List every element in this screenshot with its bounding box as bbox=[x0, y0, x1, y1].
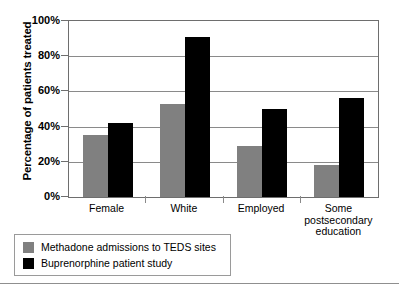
y-axis-tick-label: 100% bbox=[14, 15, 60, 26]
bar bbox=[339, 98, 364, 197]
bar bbox=[160, 104, 185, 197]
y-axis-tick-label: 40% bbox=[14, 120, 60, 131]
legend: Methadone admissions to TEDS sites Bupre… bbox=[14, 234, 231, 276]
legend-swatch-icon bbox=[23, 242, 34, 253]
category-separator bbox=[300, 196, 301, 203]
bar bbox=[314, 165, 339, 197]
category-separator bbox=[223, 196, 224, 203]
bar bbox=[185, 37, 210, 197]
y-axis-tick-label: 80% bbox=[14, 50, 60, 61]
bar bbox=[237, 146, 262, 197]
y-axis-tick-label: 0% bbox=[14, 191, 60, 202]
bottom-divider bbox=[0, 283, 399, 284]
category-separator bbox=[145, 196, 146, 203]
legend-item: Buprenorphine patient study bbox=[23, 255, 230, 271]
plot-area bbox=[68, 20, 379, 198]
legend-swatch-icon bbox=[23, 258, 34, 269]
legend-label: Methadone admissions to TEDS sites bbox=[41, 242, 216, 253]
legend-item: Methadone admissions to TEDS sites bbox=[23, 239, 230, 255]
legend-label: Buprenorphine patient study bbox=[41, 258, 172, 269]
gridline bbox=[69, 91, 378, 92]
bar-chart-figure: Percentage of patients treated 0%20%40%6… bbox=[0, 0, 399, 293]
bar bbox=[83, 135, 108, 197]
y-axis-tick-label: 20% bbox=[14, 155, 60, 166]
bar bbox=[108, 123, 133, 197]
x-axis-tick-label: Somepostsecondaryeducation bbox=[293, 203, 383, 238]
y-axis-title: Percentage of patients treated bbox=[21, 6, 33, 196]
bar bbox=[262, 109, 287, 197]
gridline bbox=[69, 56, 378, 57]
y-axis-tick-label: 60% bbox=[14, 85, 60, 96]
